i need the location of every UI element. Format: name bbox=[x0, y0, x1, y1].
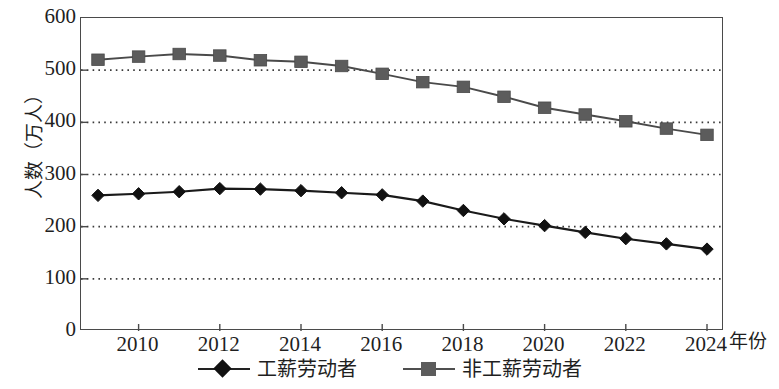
chart-figure: 人数（万人） 0100200300400500600 2010201220142… bbox=[0, 0, 779, 389]
x-axis-tick-2014: 2014 bbox=[255, 334, 345, 355]
x-axis-tick-labels: 20102012201420162018202020222024 bbox=[0, 0, 779, 389]
diamond-marker-icon bbox=[198, 360, 250, 378]
x-axis-title: 年份 bbox=[729, 331, 767, 352]
x-axis-tick-2020: 2020 bbox=[499, 334, 589, 355]
chart-legend: 工薪劳动者 非工薪劳动者 bbox=[0, 358, 779, 380]
square-marker-icon bbox=[403, 360, 455, 378]
legend-entry-salaried[interactable]: 工薪劳动者 bbox=[198, 358, 357, 380]
x-axis-tick-2010: 2010 bbox=[93, 334, 183, 355]
legend-label-nonsalaried: 非工薪劳动者 bbox=[462, 358, 582, 380]
x-axis-tick-2012: 2012 bbox=[174, 334, 264, 355]
x-axis-tick-2022: 2022 bbox=[580, 334, 670, 355]
x-axis-tick-2016: 2016 bbox=[336, 334, 426, 355]
legend-entry-nonsalaried[interactable]: 非工薪劳动者 bbox=[403, 358, 582, 380]
x-axis-tick-2018: 2018 bbox=[417, 334, 507, 355]
legend-label-salaried: 工薪劳动者 bbox=[257, 358, 357, 380]
